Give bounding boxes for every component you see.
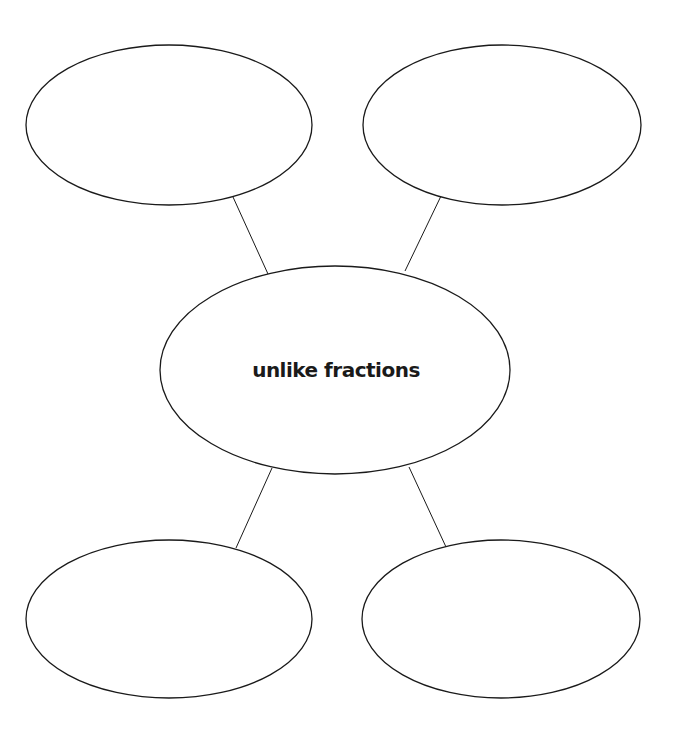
edge-top-left [233, 197, 268, 274]
node-top-left [26, 45, 312, 205]
center-label: unlike fractions [252, 358, 420, 382]
edge-top-right [405, 196, 441, 271]
node-bottom-right [362, 540, 640, 698]
node-top-right [363, 45, 641, 205]
node-bottom-left [26, 540, 312, 698]
edge-bottom-left [236, 468, 272, 548]
edge-bottom-right [409, 467, 446, 547]
concept-web-diagram: unlike fractions [0, 0, 673, 743]
